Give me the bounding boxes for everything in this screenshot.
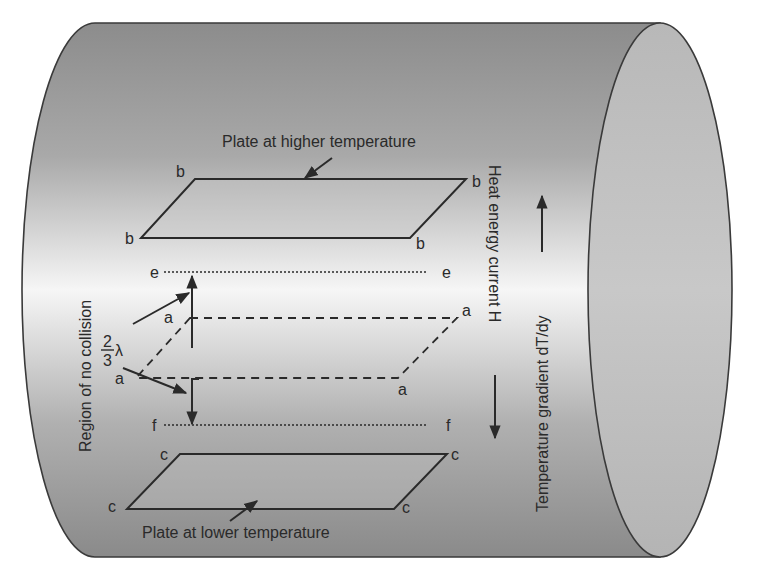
cylinder-diagram: Plate at higher temperature b b b b e e … [0, 0, 766, 573]
point-f-left: f [152, 417, 157, 434]
point-a-top-left: a [164, 309, 173, 326]
fraction-numerator: 2 [103, 333, 112, 350]
label-plate-high: Plate at higher temperature [222, 133, 416, 150]
plate-lower-temperature [127, 454, 447, 509]
lambda-symbol: λ [115, 342, 123, 359]
point-b-top-left: b [176, 163, 185, 180]
point-f-right: f [446, 417, 451, 434]
point-b-bottom-left: b [125, 230, 134, 247]
point-a-top-right: a [462, 302, 471, 319]
label-heat-current: Heat energy current H [486, 165, 503, 322]
cylinder-end-cap [588, 23, 732, 557]
point-c-bottom-left: c [108, 498, 116, 515]
label-temp-gradient: Temperature gradient dT/dy [534, 315, 551, 512]
point-e-right: e [442, 264, 451, 281]
fraction-denominator: 3 [103, 352, 112, 369]
point-c-top-left: c [160, 446, 168, 463]
label-region-no-collision: Region of no collision [77, 300, 94, 452]
point-c-bottom-right: c [402, 499, 410, 516]
label-plate-low: Plate at lower temperature [142, 524, 330, 541]
point-a-bottom-right: a [398, 381, 407, 398]
point-c-top-right: c [451, 446, 459, 463]
plate-higher-temperature [141, 179, 466, 238]
point-a-bottom-left: a [115, 370, 124, 387]
point-b-bottom-right: b [416, 235, 425, 252]
point-e-left: e [150, 264, 159, 281]
point-b-top-right: b [472, 173, 481, 190]
